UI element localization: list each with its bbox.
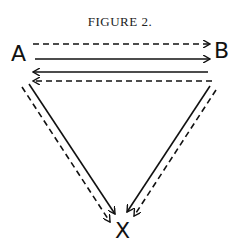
edge-a-to-x-solid bbox=[29, 84, 115, 214]
edge-b-to-x-dashed bbox=[134, 90, 216, 216]
triangle-diagram bbox=[0, 0, 240, 249]
edge-a-to-x-dashed bbox=[22, 87, 110, 222]
edge-b-to-x-solid bbox=[127, 86, 210, 212]
